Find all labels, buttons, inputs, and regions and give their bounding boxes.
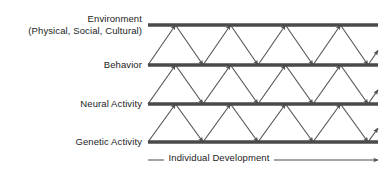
influence-arrow-down [231,104,259,142]
influence-arrow-down [231,25,259,65]
influence-arrow-down [286,65,314,104]
influence-arrow-down [341,104,369,142]
influence-arrow-up [148,65,176,104]
axis-caption: Individual Development [0,152,390,163]
influence-arrow-up [313,65,341,104]
influence-arrow-up [368,128,378,142]
influence-arrow-down [176,65,204,104]
influence-arrow-up [258,104,286,142]
influence-arrow-up [258,25,286,65]
influence-arrow-up [368,50,378,65]
level-bar-environment [148,23,378,27]
level-bar-behavior [148,63,378,67]
influence-arrow-down [341,25,369,65]
level-bar-neural [148,102,378,106]
influence-arrow-up [203,65,231,104]
influence-arrow-down [176,104,204,142]
bidirectional-influence-lattice [0,0,390,170]
level-bars-group [148,23,378,144]
influence-arrow-up [368,90,378,104]
zigzag-arrow-group [148,25,378,142]
influence-arrow-up [313,104,341,142]
influence-arrow-down [341,65,369,104]
influence-arrow-up [203,104,231,142]
influence-arrow-up [148,25,176,65]
influence-arrow-up [258,65,286,104]
influence-arrow-down [176,25,204,65]
influence-arrow-down [286,104,314,142]
influence-arrow-up [148,104,176,142]
influence-arrow-up [203,25,231,65]
diagram-canvas: Environment (Physical, Social, Cultural)… [0,0,390,170]
axis-caption-text: Individual Development [164,152,275,163]
influence-arrow-down [286,25,314,65]
influence-arrow-up [313,25,341,65]
level-bar-genetic [148,140,378,144]
influence-arrow-down [231,65,259,104]
